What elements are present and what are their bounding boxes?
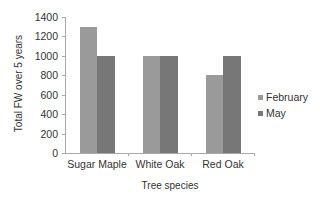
y-tick-mark <box>62 17 65 18</box>
legend-label: February <box>266 91 308 103</box>
y-tick-mark <box>62 36 65 37</box>
y-axis-label: Total FW over 5 years <box>13 24 24 144</box>
y-tick: 1200 <box>35 31 58 41</box>
x-tick-label: White Oak <box>125 158 195 170</box>
bar-may-red-oak <box>223 56 241 153</box>
x-tick-mark <box>128 153 129 156</box>
x-axis <box>65 153 255 154</box>
y-tick: 1000 <box>35 51 58 61</box>
y-tick: 800 <box>40 70 58 80</box>
legend-item-february: February <box>258 89 308 105</box>
x-tick-label: Red Oak <box>188 158 258 170</box>
legend-item-may: May <box>258 105 308 121</box>
y-tick-mark <box>62 134 65 135</box>
legend-label: May <box>266 107 286 119</box>
y-tick: 600 <box>40 90 58 100</box>
y-tick: 1400 <box>35 12 58 22</box>
y-tick: 400 <box>40 109 58 119</box>
y-tick: 200 <box>40 129 58 139</box>
x-tick-label: Sugar Maple <box>62 158 132 170</box>
y-tick: 0 <box>52 148 58 158</box>
y-tick-mark <box>62 56 65 57</box>
x-tick-mark <box>191 153 192 156</box>
bar-chart: Total FW over 5 years 0 200 400 600 800 … <box>0 0 320 208</box>
x-axis-label: Tree species <box>130 180 210 191</box>
y-axis <box>65 17 66 153</box>
x-tick-mark <box>254 153 255 156</box>
legend-swatch-may <box>258 111 263 116</box>
bar-february-red-oak <box>206 75 223 153</box>
y-tick-mark <box>62 95 65 96</box>
bar-may-white-oak <box>160 56 178 153</box>
y-tick-mark <box>62 114 65 115</box>
y-tick-mark <box>62 153 65 154</box>
bar-february-sugar-maple <box>80 27 97 153</box>
legend-swatch-february <box>258 95 263 100</box>
legend: February May <box>258 89 308 121</box>
y-tick-mark <box>62 75 65 76</box>
bar-may-sugar-maple <box>97 56 115 153</box>
bar-february-white-oak <box>143 56 160 153</box>
